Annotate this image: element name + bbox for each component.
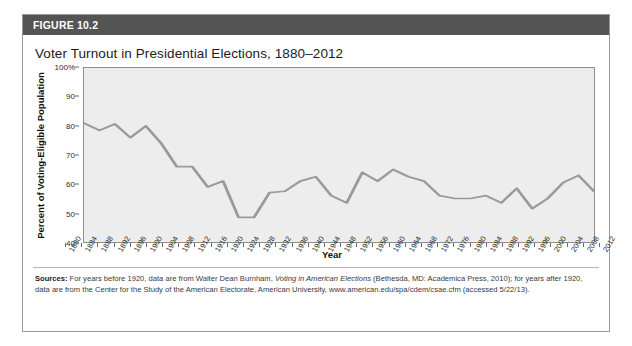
x-axis-tick-mark — [599, 243, 600, 247]
x-axis-tick-mark — [324, 243, 325, 247]
turnout-line-series — [84, 123, 594, 217]
x-axis-tick-mark — [308, 243, 309, 247]
x-axis-tick-mark — [372, 243, 373, 247]
x-axis-tick-mark — [81, 243, 82, 247]
y-axis-tick-mark — [75, 213, 79, 214]
x-axis-tick-mark — [453, 243, 454, 247]
x-axis-tick-mark — [194, 243, 195, 247]
source-prefix-label: Sources: — [35, 274, 68, 283]
x-axis-tick-mark — [162, 243, 163, 247]
x-axis-tick-mark — [259, 243, 260, 247]
figure-number-label: FIGURE 10.2 — [33, 19, 98, 31]
x-axis-tick-mark — [583, 243, 584, 247]
x-axis-tick-mark — [437, 243, 438, 247]
y-axis-tick-label: 90 — [66, 92, 75, 101]
x-axis-title: Year — [65, 249, 599, 260]
y-axis-tick-mark — [75, 184, 79, 185]
x-axis-tick-mark — [65, 243, 66, 247]
y-axis-tick-label: 80 — [66, 121, 75, 130]
x-axis-tick-mark — [502, 243, 503, 247]
x-axis-tick-mark — [146, 243, 147, 247]
x-axis-tick-mark — [130, 243, 131, 247]
x-axis-tick-mark — [518, 243, 519, 247]
y-axis-tick-label: 50 — [66, 209, 75, 218]
y-axis-tick-mark — [75, 125, 79, 126]
x-axis-tick-label: 2012 — [601, 235, 617, 254]
y-axis-tick-label: 60 — [66, 180, 75, 189]
x-axis-tick-mark — [389, 243, 390, 247]
x-axis-tick-mark — [567, 243, 568, 247]
x-axis-tick-mark — [421, 243, 422, 247]
y-axis-title: Percent of Voting-Eligible Population — [33, 67, 47, 243]
x-axis-tick-mark — [97, 243, 98, 247]
y-axis-tick-mark — [75, 96, 79, 97]
x-axis-tick-mark — [470, 243, 471, 247]
x-axis-tick-mark — [486, 243, 487, 247]
x-axis-tick-mark — [356, 243, 357, 247]
x-axis-tick-mark — [340, 243, 341, 247]
chart-block: Percent of Voting-Eligible Population 40… — [33, 67, 599, 267]
plot-area — [83, 67, 595, 243]
x-axis-tick-mark — [178, 243, 179, 247]
figure-title: Voter Turnout in Presidential Elections,… — [23, 35, 609, 67]
x-axis-tick-mark — [550, 243, 551, 247]
line-chart-svg — [84, 68, 594, 242]
x-axis-tick-mark — [405, 243, 406, 247]
figure-container: FIGURE 10.2 Voter Turnout in Presidentia… — [22, 14, 610, 332]
y-axis-title-label: Percent of Voting-Eligible Population — [35, 72, 46, 239]
x-axis-tick-mark — [211, 243, 212, 247]
y-axis-tick-mark — [75, 155, 79, 156]
y-axis-tick-label: 100% — [55, 63, 75, 72]
figure-header-bar: FIGURE 10.2 — [23, 15, 609, 35]
y-axis-tick-label: 70 — [66, 151, 75, 160]
y-axis-ticks: 405060708090100% — [51, 67, 79, 243]
x-axis-tick-mark — [243, 243, 244, 247]
x-axis-tick-mark — [275, 243, 276, 247]
x-axis-tick-mark — [292, 243, 293, 247]
y-axis-tick-mark — [75, 67, 79, 68]
plot-wrapper: 405060708090100% — [51, 67, 595, 243]
x-axis-tick-mark — [114, 243, 115, 247]
x-axis-tick-mark — [534, 243, 535, 247]
x-axis-tick-mark — [227, 243, 228, 247]
